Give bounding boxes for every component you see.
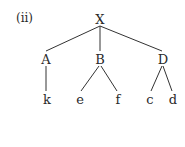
edge-x-d (100, 26, 162, 51)
edge-d-c (151, 66, 162, 91)
node-b: B (95, 52, 105, 67)
node-d-leaf: d (169, 92, 177, 107)
node-k: k (43, 92, 51, 107)
tree-diagram: (ii) X A B D k e f c d (0, 0, 185, 147)
node-e: e (76, 92, 84, 107)
edge-b-e (81, 66, 99, 91)
diagram-label: (ii) (16, 11, 33, 25)
node-x: X (95, 12, 105, 27)
edge-x-a (46, 26, 100, 51)
node-d: D (158, 52, 168, 67)
tree-edges (46, 26, 172, 91)
edge-d-d (163, 66, 172, 91)
edge-b-f (101, 66, 117, 91)
node-a: A (40, 52, 51, 67)
node-c: c (146, 92, 153, 107)
node-f: f (116, 92, 122, 107)
